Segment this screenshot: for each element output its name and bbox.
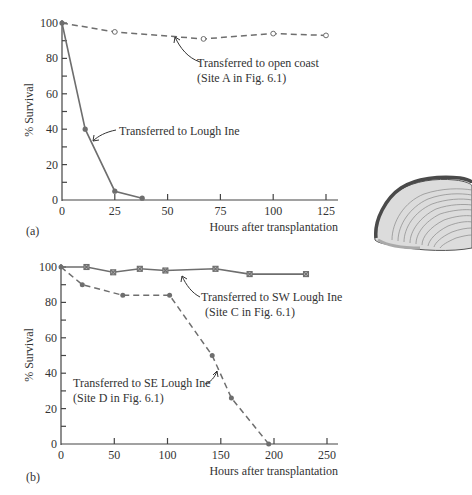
svg-text:20: 20 xyxy=(45,402,57,416)
y-axis-b xyxy=(61,264,66,445)
panel-label-b: (b) xyxy=(26,470,40,484)
svg-text:80: 80 xyxy=(45,295,57,309)
y-tick-labels-b: 100 80 60 40 20 0 xyxy=(39,260,57,451)
svg-text:80: 80 xyxy=(46,51,58,65)
svg-text:125: 125 xyxy=(317,204,335,218)
svg-text:40: 40 xyxy=(45,366,57,380)
svg-text:50: 50 xyxy=(162,204,174,218)
svg-text:60: 60 xyxy=(45,331,57,345)
svg-text:0: 0 xyxy=(51,437,57,451)
y-axis-a xyxy=(62,20,67,201)
annot-sw-line1: Transferred to SW Lough Ine xyxy=(201,290,342,304)
series-sw-lough-ine xyxy=(61,267,306,274)
svg-text:25: 25 xyxy=(109,204,121,218)
series-open-coast xyxy=(62,23,326,39)
svg-text:75: 75 xyxy=(214,204,226,218)
svg-text:250: 250 xyxy=(318,448,336,462)
svg-text:100: 100 xyxy=(264,204,282,218)
y-axis-title-a: % Survival xyxy=(22,83,36,137)
x-axis-title-a: Hours after transplantation xyxy=(209,220,338,234)
mussel-shell-icon xyxy=(375,177,472,250)
chart-panel-b: 100 80 60 40 20 0 0 50 100 150 200 250 %… xyxy=(22,260,342,484)
x-tick-labels-a: 0 25 50 75 100 125 xyxy=(59,204,335,218)
annot-sw-line2: (Site C in Fig. 6.1) xyxy=(205,305,295,319)
y-tick-labels-a: 100 80 60 40 20 0 xyxy=(40,16,58,207)
annot-se-line2: (Site D in Fig. 6.1) xyxy=(73,391,164,405)
annot-open-coast-line2: (Site A in Fig. 6.1) xyxy=(197,71,286,85)
markers-open-coast xyxy=(112,30,328,42)
x-axis-title-b: Hours after transplantation xyxy=(209,464,338,478)
svg-text:0: 0 xyxy=(58,448,64,462)
svg-text:0: 0 xyxy=(59,204,65,218)
svg-text:100: 100 xyxy=(40,16,58,30)
y-axis-title-b: % Survival xyxy=(22,328,36,382)
svg-text:40: 40 xyxy=(46,122,58,136)
svg-text:20: 20 xyxy=(46,158,58,172)
annot-open-coast-line1: Transferred to open coast xyxy=(197,56,320,70)
markers-lough-ine xyxy=(59,20,144,200)
svg-text:60: 60 xyxy=(46,87,58,101)
svg-text:50: 50 xyxy=(108,448,120,462)
arrow-sw xyxy=(182,276,200,297)
svg-text:100: 100 xyxy=(39,260,57,274)
svg-text:200: 200 xyxy=(265,448,283,462)
figure: 100 80 60 40 20 0 0 25 50 75 100 125 % S… xyxy=(0,0,472,495)
x-axis-b xyxy=(61,438,338,444)
arrow-lough-ine xyxy=(93,130,116,141)
x-tick-labels-b: 0 50 100 150 200 250 xyxy=(58,448,336,462)
panel-label-a: (a) xyxy=(26,224,39,238)
annot-lough-ine: Transferred to Lough Ine xyxy=(119,124,240,138)
series-lough-ine xyxy=(62,23,142,198)
svg-text:100: 100 xyxy=(159,448,177,462)
chart-panel-a: 100 80 60 40 20 0 0 25 50 75 100 125 % S… xyxy=(22,16,338,238)
x-axis-a xyxy=(62,194,338,200)
annot-se-line1: Transferred to SE Lough Ine xyxy=(73,376,211,390)
svg-text:0: 0 xyxy=(52,193,58,207)
svg-text:150: 150 xyxy=(212,448,230,462)
